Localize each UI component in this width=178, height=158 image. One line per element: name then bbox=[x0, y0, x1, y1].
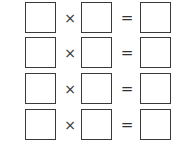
equals-sign: = bbox=[119, 73, 135, 105]
times-sign: × bbox=[62, 109, 78, 141]
times-sign: × bbox=[62, 73, 78, 105]
equals-sign: = bbox=[119, 2, 135, 34]
product-box[interactable] bbox=[140, 2, 171, 33]
factor-1-box[interactable] bbox=[25, 73, 56, 104]
times-sign: × bbox=[62, 37, 78, 69]
equals-sign: = bbox=[119, 109, 135, 141]
product-box[interactable] bbox=[140, 73, 171, 104]
factor-1-box[interactable] bbox=[25, 109, 56, 140]
equation-row-4: × = bbox=[0, 109, 178, 141]
factor-2-box[interactable] bbox=[81, 37, 112, 68]
factor-2-box[interactable] bbox=[81, 2, 112, 33]
times-sign: × bbox=[62, 2, 78, 34]
factor-2-box[interactable] bbox=[81, 73, 112, 104]
equation-row-1: × = bbox=[0, 2, 178, 34]
factor-1-box[interactable] bbox=[25, 2, 56, 33]
product-box[interactable] bbox=[140, 37, 171, 68]
factor-1-box[interactable] bbox=[25, 37, 56, 68]
product-box[interactable] bbox=[140, 109, 171, 140]
equation-row-3: × = bbox=[0, 73, 178, 105]
factor-2-box[interactable] bbox=[81, 109, 112, 140]
equals-sign: = bbox=[119, 37, 135, 69]
equation-row-2: × = bbox=[0, 37, 178, 69]
